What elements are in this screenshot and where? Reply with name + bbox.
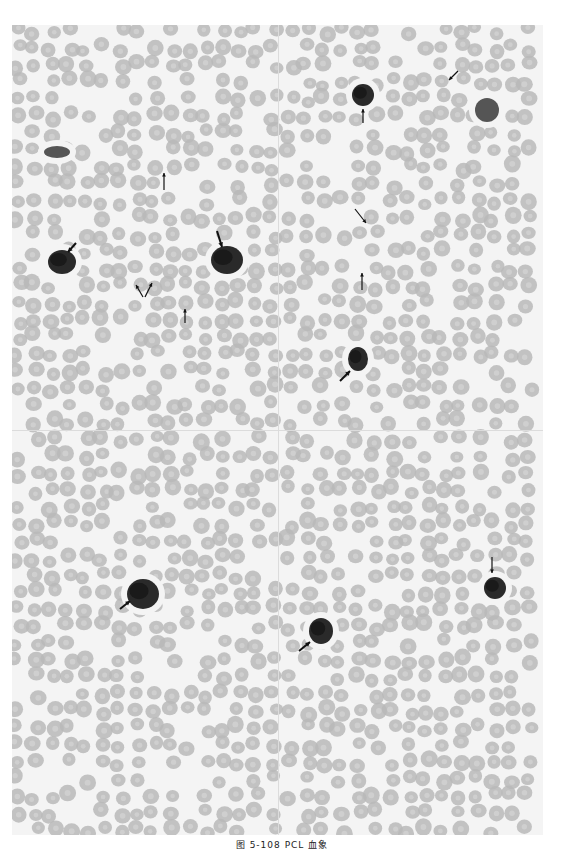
figure-caption: 图 5-108 PCL 血象: [0, 838, 564, 851]
neutrophil: [44, 146, 70, 158]
neutrophil: [475, 98, 499, 122]
blood-smear-figure: [12, 25, 543, 835]
panel-divider-horizontal: [12, 430, 543, 431]
